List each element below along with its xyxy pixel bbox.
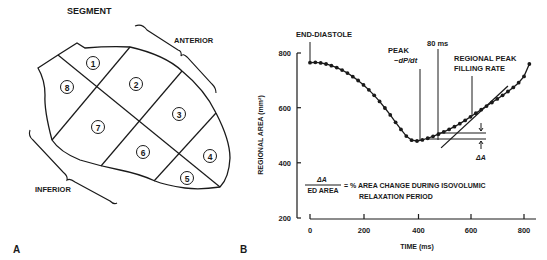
end-diastole-label: END-DIASTOLE (296, 30, 352, 39)
delta-a-arrow-up (479, 141, 483, 149)
dpdt-label: −dP/dt (394, 56, 418, 65)
data-point (511, 85, 515, 89)
data-point (431, 134, 435, 138)
x-tick-200: 200 (358, 226, 371, 235)
data-point (378, 100, 382, 104)
formula-text-line1: = % AREA CHANGE DURING ISOVOLUMIC (344, 182, 486, 189)
segment-6: 6 (137, 146, 150, 159)
regional-peak-label-line1: REGIONAL PEAK (454, 54, 517, 63)
data-point (404, 134, 408, 138)
regional-peak-label-line2: FILLING RATE (454, 64, 505, 73)
data-point (399, 128, 403, 132)
divider-3 (154, 113, 216, 181)
ventricle-outline (38, 43, 230, 189)
panel-a-title: SEGMENT (67, 6, 112, 16)
data-point (308, 61, 312, 65)
y-tick-200: 200 (278, 214, 291, 223)
x-tick-0: 0 (308, 226, 312, 235)
segment-7: 7 (92, 121, 105, 134)
delta-a-arrow-down (479, 123, 483, 131)
segment-3: 3 (173, 108, 186, 121)
data-point (506, 90, 510, 94)
data-point (522, 74, 526, 78)
data-point (362, 83, 366, 87)
data-point (394, 120, 398, 124)
x-tick-600: 600 (465, 226, 478, 235)
segment-8: 8 (61, 81, 74, 94)
data-point (340, 68, 344, 72)
y-tick-400: 400 (278, 159, 291, 168)
data-point (420, 138, 424, 142)
x-axis-label: TIME (ms) (400, 243, 433, 251)
y-tick-600: 600 (278, 104, 291, 113)
figure-svg: SEGMENT 1 2 3 4 5 6 (0, 0, 547, 260)
data-point (410, 138, 414, 142)
svg-text:3: 3 (177, 110, 182, 120)
svg-text:4: 4 (208, 152, 213, 162)
data-point (501, 93, 505, 97)
svg-text:5: 5 (185, 174, 190, 184)
data-point (351, 75, 355, 79)
formula-numerator: ΔA (316, 176, 327, 183)
y-tick-800: 800 (278, 49, 291, 58)
panel-b-label: B (240, 244, 247, 255)
delta-a-label: ΔA (475, 154, 486, 161)
data-point (383, 106, 387, 110)
svg-text:1: 1 (91, 59, 96, 69)
data-point (447, 128, 451, 132)
formula-denominator: ED AREA (307, 187, 338, 194)
inferior-label: INFERIOR (35, 185, 71, 194)
data-point (346, 71, 350, 75)
figure: SEGMENT 1 2 3 4 5 6 (0, 0, 547, 260)
data-point (517, 81, 521, 85)
data-point (388, 113, 392, 117)
x-axis: 0 200 400 600 800 TIME (ms) (308, 214, 536, 251)
x-tick-400: 400 (412, 226, 425, 235)
formula: ΔA ED AREA = % AREA CHANGE DURING ISOVOL… (305, 176, 486, 200)
svg-text:7: 7 (96, 123, 101, 133)
data-point (453, 125, 457, 129)
data-point (458, 122, 462, 126)
data-point (319, 61, 323, 65)
data-point (372, 93, 376, 97)
segment-5: 5 (181, 172, 194, 185)
panel-b: B 800 600 400 200 REGIONAL AREA (mm²) 0 … (240, 30, 536, 255)
x-tick-800: 800 (518, 226, 531, 235)
data-point (313, 60, 317, 64)
data-point (463, 118, 467, 122)
peak-label: PEAK (388, 46, 409, 55)
data-point (527, 62, 531, 66)
segment-2: 2 (130, 78, 143, 91)
y-axis: 800 600 400 200 REGIONAL AREA (mm²) (257, 49, 301, 223)
panel-a: SEGMENT 1 2 3 4 5 6 (13, 6, 230, 255)
segment-1: 1 (87, 57, 100, 70)
ms80-label: 80 ms (427, 39, 448, 48)
anterior-label: ANTERIOR (174, 36, 214, 45)
data-point (330, 64, 334, 68)
data-point (426, 136, 430, 140)
data-point (324, 62, 328, 66)
data-point (367, 88, 371, 92)
data-point (415, 139, 419, 143)
data-point (335, 66, 339, 70)
data-point (356, 79, 360, 83)
svg-text:2: 2 (134, 80, 139, 90)
y-axis-label: REGIONAL AREA (mm²) (257, 95, 265, 174)
panel-a-label: A (13, 244, 20, 255)
segment-4: 4 (204, 150, 217, 163)
formula-text-line2: RELAXATION PERIOD (359, 193, 433, 200)
svg-text:8: 8 (65, 83, 70, 93)
svg-text:6: 6 (141, 148, 146, 158)
